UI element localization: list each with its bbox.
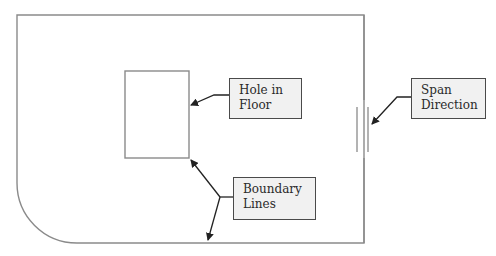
hole-in-floor-rect bbox=[125, 71, 189, 158]
span-direction-symbol bbox=[357, 15, 368, 243]
callout-boundary-lines: Boundary Lines bbox=[233, 177, 316, 220]
hole-leader-arrow bbox=[191, 95, 229, 105]
callout-span-direction: Span Direction bbox=[411, 78, 486, 119]
callout-hole-in-floor: Hole in Floor bbox=[229, 78, 302, 119]
span-leader-arrow bbox=[372, 97, 411, 124]
boundary-leader-arrows bbox=[191, 160, 233, 240]
